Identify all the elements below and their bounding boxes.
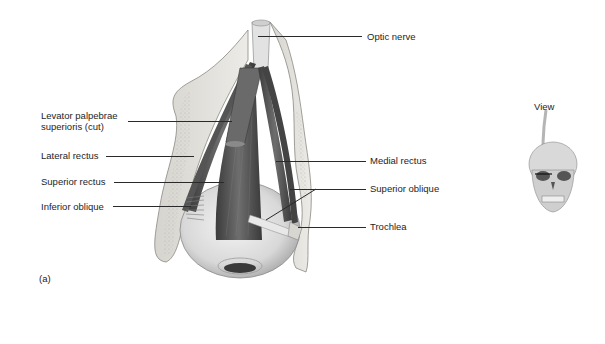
leader-lateral-rectus <box>106 156 194 157</box>
eye-muscles-illustration <box>0 0 605 344</box>
leader-optic-nerve <box>258 36 362 37</box>
skull-view-inset <box>529 110 577 212</box>
leader-inferior-oblique <box>113 206 191 207</box>
leader-levator-palpebrae <box>128 121 232 122</box>
leader-superior-rectus <box>114 182 224 183</box>
label-superior-rectus: Superior rectus <box>41 176 105 187</box>
cornea <box>224 263 256 273</box>
leader-trochlea <box>298 227 366 228</box>
label-levator-palpebrae: Levator palpebrae superioris (cut) <box>41 110 118 132</box>
leader-superior-oblique-diagonal <box>260 186 320 226</box>
label-optic-nerve: Optic nerve <box>367 31 416 42</box>
label-inferior-oblique: Inferior oblique <box>41 201 104 212</box>
panel-label: (a) <box>39 273 51 284</box>
optic-nerve <box>252 20 270 70</box>
label-superior-oblique: Superior oblique <box>370 183 439 194</box>
view-label: View <box>534 101 554 112</box>
label-lateral-rectus: Lateral rectus <box>41 150 99 161</box>
label-medial-rectus: Medial rectus <box>370 155 427 166</box>
leader-medial-rectus <box>276 161 366 162</box>
label-trochlea: Trochlea <box>370 221 407 232</box>
